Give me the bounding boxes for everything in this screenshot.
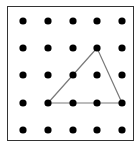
grid-dot [69, 99, 76, 106]
grid-dot [93, 126, 100, 133]
grid-dot [19, 71, 26, 78]
grid-dot [69, 17, 76, 24]
grid-dot [93, 71, 100, 78]
grid-dot [69, 71, 76, 78]
grid-dot [19, 17, 26, 24]
grid-dot [93, 44, 100, 51]
grid-dot [44, 99, 51, 106]
grid-dot [69, 44, 76, 51]
grid-dot [69, 126, 76, 133]
dot-grid-diagram [0, 0, 140, 146]
grid-dot [44, 71, 51, 78]
grid-dot [19, 99, 26, 106]
grid-dot [93, 17, 100, 24]
triangle-shape [48, 48, 122, 103]
grid-dot [118, 71, 125, 78]
grid-dot [44, 17, 51, 24]
grid-dot [19, 126, 26, 133]
grid-dot [118, 44, 125, 51]
grid-dot [44, 44, 51, 51]
grid-dot [118, 17, 125, 24]
grid-dot [118, 99, 125, 106]
grid-dot [44, 126, 51, 133]
grid-dot [93, 99, 100, 106]
grid-dot [118, 126, 125, 133]
grid-dot [19, 44, 26, 51]
